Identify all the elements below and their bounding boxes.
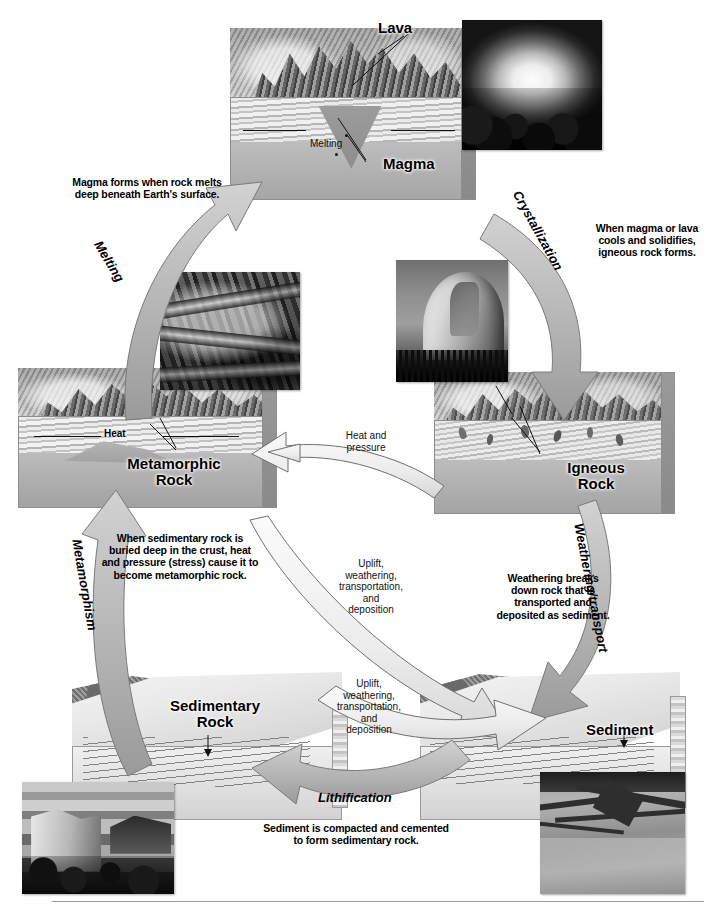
weathering-transport-description: Weathering breaks down rock that is tran… — [494, 572, 612, 621]
sedimentary-bedding-planes — [83, 737, 310, 787]
melting-description: Magma forms when rock melts deep beneath… — [62, 176, 232, 200]
heat-inline-label: Heat — [104, 428, 126, 439]
uplift-upper-line3: transportation, — [339, 581, 403, 592]
uplift-upper-line4: and — [363, 593, 380, 604]
igneous-block-side-face — [661, 372, 675, 514]
metamorphic-rock-label: Metamorphic Rock — [104, 456, 244, 488]
magma-label: Magma — [383, 156, 435, 172]
metamorphism-description: When sedimentary rock is buried deep in … — [100, 532, 260, 581]
lithification-process-label: Lithification — [318, 790, 392, 805]
sedimentary-rock-label-line1: Sedimentary — [170, 697, 260, 714]
uplift-upper-line5: deposition — [348, 604, 394, 615]
compression-arrow-right — [162, 436, 239, 437]
spreading-arrow-left — [243, 130, 306, 131]
metamorphic-rock-label-line2: Rock — [156, 471, 193, 488]
lava-eruption-photo — [462, 20, 602, 150]
uplift-lower-line1: Uplift, — [356, 678, 382, 689]
uplift-lower-line5: deposition — [346, 724, 392, 735]
magma-mountains — [250, 28, 461, 107]
sedimentary-rock-label-line2: Rock — [197, 713, 234, 730]
lithification-description: Sediment is compacted and cemented to fo… — [258, 822, 454, 846]
sediment-label: Sediment — [586, 722, 654, 738]
layered-canyon-photo — [22, 782, 174, 894]
folded-metamorphic-rock-photo — [160, 272, 300, 390]
igneous-rock-label: Igneous Rock — [548, 460, 644, 492]
braided-river-photo — [540, 772, 685, 894]
uplift-lower-line2: weathering, — [343, 690, 395, 701]
crystallization-process-label: Crystallization — [510, 188, 566, 273]
melting-inline-label: Melting — [310, 138, 342, 150]
spreading-arrow-right — [391, 130, 454, 131]
uplift-upper-line2: weathering, — [345, 570, 397, 581]
magma-block-diagram — [230, 28, 475, 200]
uplift-upper-label: Uplift, weathering, transportation, and … — [316, 558, 426, 616]
heat-and-pressure-label: Heat and pressure — [318, 430, 414, 453]
rock-cycle-figure: Lava Melting Magma Magma forms when rock… — [0, 0, 714, 919]
uplift-lower-line4: and — [361, 713, 378, 724]
crystallization-description: When magma or lava cools and solidifies,… — [594, 222, 700, 259]
melting-process-label: Melting — [91, 238, 127, 285]
uplift-upper-line1: Uplift, — [358, 558, 384, 569]
metamorphic-rock-label-line1: Metamorphic — [127, 455, 220, 472]
uplift-lower-label: Uplift, weathering, transportation, and … — [314, 678, 424, 736]
heat-and-pressure-line2: pressure — [347, 442, 386, 453]
igneous-rock-label-line2: Rock — [578, 475, 615, 492]
lava-label: Lava — [378, 20, 412, 36]
igneous-rock-label-line1: Igneous — [567, 459, 625, 476]
heat-and-pressure-line1: Heat and — [346, 430, 387, 441]
compression-arrow-left — [34, 436, 101, 437]
sedimentary-rock-label: Sedimentary Rock — [140, 698, 290, 730]
magma-block-cross-section — [230, 97, 475, 200]
uplift-lower-line3: transportation, — [337, 701, 401, 712]
igneous-block-diagram — [434, 372, 674, 514]
bottom-divider-rule — [52, 901, 704, 902]
metamorphism-process-label: Metamorphism — [69, 538, 100, 632]
granite-dome-photo — [396, 260, 508, 382]
magma-block-top-surface — [230, 28, 475, 107]
